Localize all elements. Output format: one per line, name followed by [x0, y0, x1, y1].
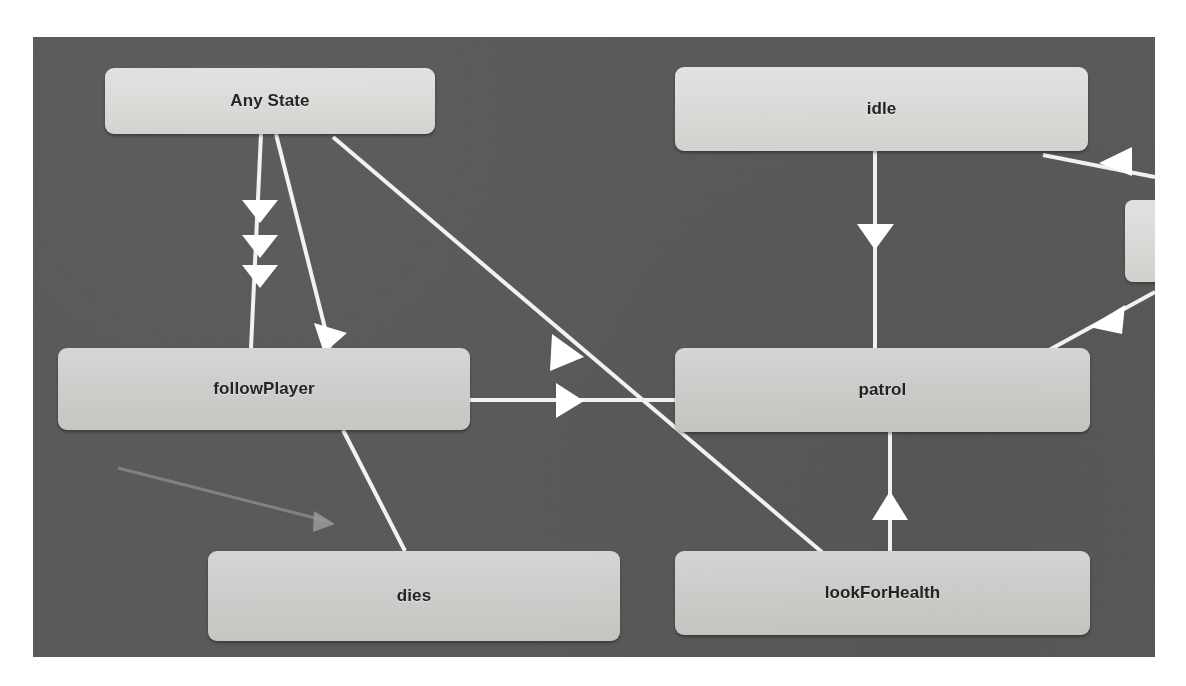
- state-node-any-state[interactable]: Any State: [105, 68, 435, 134]
- transition-look-for-health-to-patrol[interactable]: [872, 432, 908, 551]
- transition-muted[interactable]: [118, 468, 335, 532]
- state-node-label: patrol: [859, 380, 907, 400]
- state-node-label: followPlayer: [213, 379, 314, 399]
- transition-any-state-to-follow-player-b[interactable]: [276, 134, 347, 353]
- animator-state-machine-canvas[interactable]: Any State idle followPlayer patrol dies …: [33, 37, 1155, 657]
- state-node-label: lookForHealth: [825, 583, 941, 603]
- state-node-offscreen-partial[interactable]: [1125, 200, 1155, 282]
- transition-follow-player-to-patrol[interactable]: [470, 383, 675, 418]
- state-node-patrol[interactable]: patrol: [675, 348, 1090, 432]
- transition-offscreen-to-patrol[interactable]: [1040, 292, 1155, 355]
- state-node-follow-player[interactable]: followPlayer: [58, 348, 470, 430]
- animator-window: Any State idle followPlayer patrol dies …: [0, 0, 1186, 686]
- state-node-label: idle: [867, 99, 897, 119]
- state-node-dies[interactable]: dies: [208, 551, 620, 641]
- state-node-look-for-health[interactable]: lookForHealth: [675, 551, 1090, 635]
- state-node-idle[interactable]: idle: [675, 67, 1088, 151]
- transition-idle-to-patrol[interactable]: [857, 151, 894, 348]
- state-node-label: Any State: [230, 91, 309, 111]
- transition-offscreen-to-idle[interactable]: [1043, 147, 1155, 177]
- transition-any-state-to-look-for-health[interactable]: [333, 137, 823, 553]
- state-node-label: dies: [397, 586, 431, 606]
- transition-any-state-to-follow-player-a[interactable]: [242, 134, 278, 348]
- transition-follow-player-to-dies[interactable]: [343, 430, 405, 551]
